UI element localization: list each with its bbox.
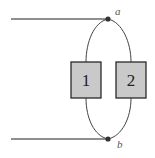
branch-right-bottom — [108, 98, 131, 139]
branch-left-top — [86, 19, 108, 62]
element-1-label: 1 — [82, 71, 91, 90]
node-a-label: a — [115, 5, 121, 17]
branch-left-bottom — [86, 98, 108, 139]
node-b-label: b — [117, 138, 123, 150]
circuit-diagram: 1 2 a b — [0, 0, 155, 158]
node-a — [105, 16, 110, 21]
branch-right-top — [108, 19, 131, 62]
element-2-label: 2 — [127, 71, 136, 90]
node-b — [105, 136, 110, 141]
element-2: 2 — [116, 62, 146, 98]
element-1: 1 — [71, 62, 101, 98]
